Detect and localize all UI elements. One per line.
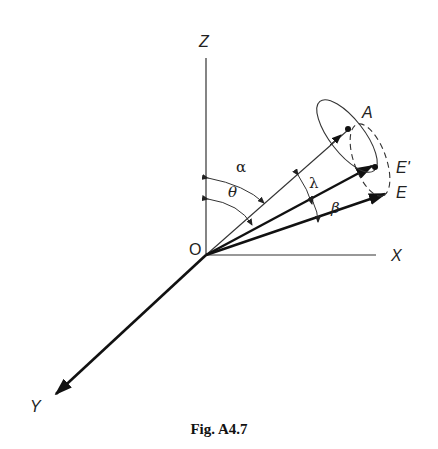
theta-label: θ — [228, 183, 237, 201]
point-e-prime — [372, 164, 378, 170]
vector-oe-prime — [206, 166, 372, 255]
vector-oe — [206, 194, 385, 255]
oa-arrow — [330, 135, 341, 145]
lambda-label: λ — [309, 174, 319, 192]
y-axis-label: Y — [30, 398, 42, 415]
point-e-label: E — [396, 184, 407, 201]
origin-label: O — [189, 241, 201, 258]
beta-label: β — [330, 199, 340, 217]
x-axis-label: X — [390, 247, 403, 264]
figure-caption: Fig. A4.7 — [190, 421, 248, 437]
vector-diagram: Z X Y O A E' E α θ λ β Fig. A4.7 — [0, 0, 438, 449]
z-axis-label: Z — [198, 33, 210, 50]
point-e-prime-label: E' — [396, 159, 411, 176]
theta-arc — [208, 199, 252, 225]
point-a-label: A — [361, 104, 373, 121]
y-axis — [56, 255, 206, 394]
point-a — [345, 126, 351, 132]
cone-ellipse-dashed — [342, 119, 398, 201]
alpha-label: α — [236, 158, 246, 176]
